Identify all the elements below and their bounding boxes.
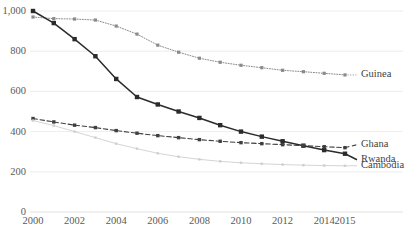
chart-canvas: 02004006008001,000 200020022004200620082… — [0, 0, 412, 239]
data-point-guinea-2012 — [281, 69, 284, 72]
data-point-ghana-2007 — [177, 136, 180, 139]
data-point-ghana-2012 — [281, 143, 284, 146]
data-point-rwanda-2006 — [156, 102, 160, 106]
data-point-ghana-2011 — [260, 142, 263, 145]
series-guinea — [31, 15, 346, 76]
x-tick-label-2004: 2004 — [106, 215, 128, 226]
y-tick-label-400: 400 — [10, 126, 26, 137]
data-point-cambodia-2009 — [219, 160, 221, 162]
data-point-rwanda-2004 — [114, 77, 118, 81]
data-point-rwanda-2011 — [260, 134, 264, 138]
data-point-cambodia-2004 — [115, 142, 117, 144]
data-point-rwanda-2014 — [322, 148, 326, 152]
data-point-cambodia-2013 — [302, 164, 304, 166]
data-point-rwanda-2010 — [239, 129, 243, 133]
data-point-guinea-2009 — [219, 61, 222, 64]
data-point-rwanda-2001 — [52, 21, 56, 25]
x-tick-label-2002: 2002 — [64, 215, 85, 226]
series-line-cambodia — [33, 121, 345, 166]
data-point-ghana-2013 — [302, 144, 305, 147]
line-chart: 02004006008001,000 200020022004200620082… — [0, 0, 412, 239]
data-point-ghana-2002 — [73, 123, 76, 126]
data-point-guinea-2006 — [156, 44, 159, 47]
data-point-rwanda-2012 — [280, 139, 284, 143]
data-point-ghana-2003 — [94, 126, 97, 129]
data-point-cambodia-2001 — [53, 124, 55, 126]
x-tick-label-2012: 2012 — [272, 215, 293, 226]
y-tick-label-600: 600 — [10, 85, 26, 96]
y-axis-tick-labels: 02004006008001,000 — [2, 5, 26, 217]
data-point-cambodia-2007 — [177, 156, 179, 158]
series-leader-rwanda — [345, 154, 357, 160]
y-tick-label-1000: 1,000 — [2, 5, 26, 16]
data-point-guinea-2004 — [115, 24, 118, 27]
data-point-rwanda-2007 — [176, 109, 180, 113]
data-point-rwanda-2008 — [197, 116, 201, 120]
series-rwanda — [31, 9, 347, 156]
data-series-group — [31, 9, 357, 167]
data-point-cambodia-2008 — [198, 158, 200, 160]
data-point-cambodia-2010 — [240, 162, 242, 164]
x-tick-label-2006: 2006 — [147, 215, 168, 226]
data-point-cambodia-2012 — [281, 163, 283, 165]
y-tick-label-800: 800 — [10, 45, 26, 56]
data-point-cambodia-2003 — [94, 136, 96, 138]
data-point-guinea-2001 — [52, 17, 55, 20]
data-point-cambodia-2000 — [32, 119, 34, 121]
series-label-cambodia: Cambodia — [361, 159, 404, 170]
series-labels-group: GuineaRwandaGhanaCambodia — [361, 68, 404, 170]
data-point-guinea-2013 — [302, 70, 305, 73]
data-point-cambodia-2011 — [261, 163, 263, 165]
x-tick-label-2010: 2010 — [231, 215, 252, 226]
data-point-rwanda-2005 — [135, 95, 139, 99]
data-point-ghana-2008 — [198, 138, 201, 141]
data-point-ghana-2009 — [219, 140, 222, 143]
data-point-ghana-2006 — [156, 134, 159, 137]
series-label-guinea: Guinea — [361, 68, 392, 79]
data-point-rwanda-2003 — [93, 54, 97, 58]
data-point-rwanda-2000 — [31, 9, 35, 13]
x-axis-tick-labels: 200020022004200620082010201220142015 — [23, 215, 356, 226]
data-point-ghana-2014 — [323, 145, 326, 148]
data-point-cambodia-2005 — [136, 147, 138, 149]
gridlines — [30, 11, 403, 212]
x-tick-label-2015: 2015 — [335, 215, 356, 226]
x-tick-label-2014: 2014 — [314, 215, 336, 226]
data-point-guinea-2014 — [323, 72, 326, 75]
data-point-cambodia-2014 — [323, 164, 325, 166]
data-point-cambodia-2002 — [73, 130, 75, 132]
data-point-ghana-2005 — [135, 132, 138, 135]
x-tick-label-2008: 2008 — [189, 215, 210, 226]
data-point-guinea-2008 — [198, 57, 201, 60]
series-leader-ghana — [345, 145, 357, 148]
data-point-guinea-2002 — [73, 17, 76, 20]
data-point-rwanda-2009 — [218, 123, 222, 127]
data-point-guinea-2007 — [177, 51, 180, 54]
data-point-cambodia-2006 — [157, 152, 159, 154]
data-point-guinea-2000 — [31, 15, 34, 18]
x-tick-label-2000: 2000 — [23, 215, 44, 226]
series-cambodia — [32, 119, 346, 167]
data-point-guinea-2005 — [135, 33, 138, 36]
data-point-guinea-2011 — [260, 66, 263, 69]
data-point-guinea-2010 — [239, 64, 242, 67]
data-point-ghana-2010 — [239, 141, 242, 144]
y-tick-label-200: 200 — [10, 166, 26, 177]
data-point-rwanda-2002 — [72, 37, 76, 41]
series-line-guinea — [33, 17, 345, 75]
series-line-rwanda — [33, 11, 345, 154]
series-label-ghana: Ghana — [361, 138, 389, 149]
data-point-ghana-2001 — [52, 120, 55, 123]
data-point-guinea-2003 — [94, 18, 97, 21]
data-point-ghana-2004 — [115, 129, 118, 132]
